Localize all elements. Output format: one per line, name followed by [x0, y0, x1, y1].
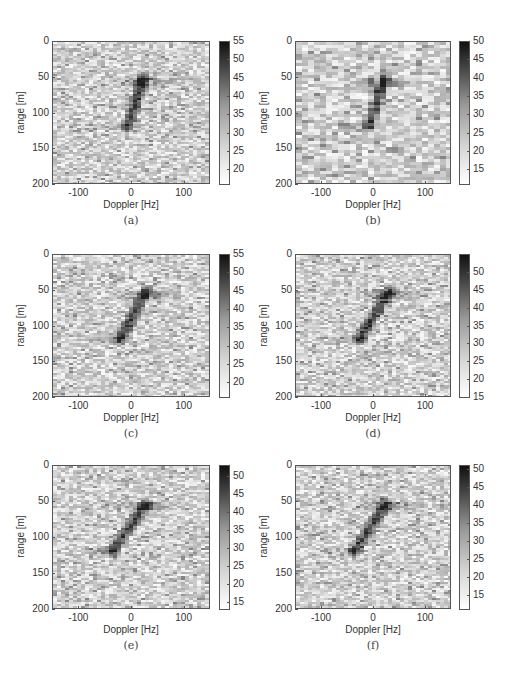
- colorbar-tick-label: 20: [473, 572, 484, 582]
- colorbar-tick-mark: [227, 41, 230, 42]
- y-tick-mark: [295, 148, 298, 149]
- colorbar-tick-mark: [227, 133, 230, 134]
- colorbar-tick-label: 50: [233, 267, 244, 277]
- colorbar-tick-mark: [227, 78, 230, 79]
- colorbar-tick-label: 25: [473, 128, 484, 138]
- colorbar-tick-label: 25: [233, 146, 244, 156]
- y-tick-label: 100: [25, 108, 49, 118]
- colorbar-tick-mark: [227, 382, 230, 383]
- y-tick-label: 100: [25, 321, 49, 331]
- y-tick-mark: [52, 397, 55, 398]
- y-tick-mark: [52, 501, 55, 502]
- colorbar-tick-mark: [227, 327, 230, 328]
- y-tick-mark: [52, 77, 55, 78]
- y-tick-label: 100: [25, 532, 49, 542]
- colorbar-tick-label: 45: [233, 489, 244, 499]
- y-tick-label: 200: [25, 392, 49, 402]
- colorbar-tick-mark: [227, 512, 230, 513]
- x-tick-label: -100: [63, 613, 93, 623]
- x-tick-mark: [425, 606, 426, 609]
- colorbar-tick-label: 45: [473, 482, 484, 492]
- x-tick-label: 0: [358, 613, 388, 623]
- y-tick-mark: [295, 609, 298, 610]
- colorbar-tick-label: 50: [233, 471, 244, 481]
- y-tick-mark: [295, 465, 298, 466]
- y-tick-mark: [295, 501, 298, 502]
- x-tick-label: 100: [169, 401, 199, 411]
- x-axis-label: Doppler [Hz]: [323, 624, 423, 635]
- x-tick-mark: [373, 181, 374, 184]
- x-tick-mark: [184, 394, 185, 397]
- y-tick-mark: [52, 326, 55, 327]
- colorbar-tick-mark: [467, 397, 470, 398]
- x-tick-mark: [425, 394, 426, 397]
- colorbar-tick-label: 25: [233, 359, 244, 369]
- colorbar-tick-mark: [227, 114, 230, 115]
- x-tick-label: -100: [63, 401, 93, 411]
- colorbar-tick-label: 55: [233, 249, 244, 259]
- colorbar-tick-mark: [227, 96, 230, 97]
- x-axis-label: Doppler [Hz]: [81, 624, 181, 635]
- colorbar-tick-label: 40: [473, 303, 484, 313]
- colorbar-tick-mark: [227, 254, 230, 255]
- panel-caption: (f): [353, 639, 393, 652]
- colorbar-tick-mark: [467, 523, 470, 524]
- x-tick-mark: [131, 606, 132, 609]
- x-tick-mark: [78, 181, 79, 184]
- colorbar-tick-label: 15: [473, 164, 484, 174]
- colorbar-tick-mark: [227, 602, 230, 603]
- y-tick-label: 0: [25, 460, 49, 470]
- colorbar-tick-label: 55: [233, 36, 244, 46]
- y-tick-label: 50: [268, 285, 292, 295]
- y-tick-mark: [295, 397, 298, 398]
- colorbar-tick-mark: [227, 272, 230, 273]
- y-tick-mark: [52, 41, 55, 42]
- colorbar-tick-mark: [227, 346, 230, 347]
- colorbar-tick-mark: [467, 343, 470, 344]
- y-tick-label: 50: [268, 496, 292, 506]
- colorbar-tick-label: 45: [233, 286, 244, 296]
- y-tick-label: 100: [268, 321, 292, 331]
- y-tick-mark: [295, 573, 298, 574]
- colorbar-tick-label: 30: [233, 543, 244, 553]
- colorbar-tick-mark: [227, 548, 230, 549]
- colorbar-tick-label: 45: [233, 73, 244, 83]
- x-tick-mark: [131, 181, 132, 184]
- x-tick-mark: [184, 181, 185, 184]
- x-axis-label: Doppler [Hz]: [81, 199, 181, 210]
- y-tick-label: 200: [25, 604, 49, 614]
- y-axis-label: range [m]: [15, 295, 26, 355]
- colorbar-tick-label: 45: [473, 285, 484, 295]
- y-tick-label: 200: [268, 392, 292, 402]
- colorbar-tick-label: 35: [473, 321, 484, 331]
- y-tick-label: 0: [268, 249, 292, 259]
- x-tick-label: 100: [410, 188, 440, 198]
- panel-caption: (d): [353, 427, 393, 440]
- colorbar-tick-label: 30: [233, 128, 244, 138]
- colorbar-tick-mark: [467, 114, 470, 115]
- colorbar-tick-mark: [467, 78, 470, 79]
- x-tick-mark: [131, 394, 132, 397]
- x-tick-label: 100: [410, 613, 440, 623]
- y-tick-label: 150: [25, 356, 49, 366]
- x-tick-label: -100: [63, 188, 93, 198]
- y-tick-mark: [295, 326, 298, 327]
- heatmap-plot: [295, 41, 451, 184]
- colorbar-tick-mark: [467, 559, 470, 560]
- y-tick-label: 150: [268, 568, 292, 578]
- colorbar-tick-label: 30: [473, 338, 484, 348]
- y-tick-label: 50: [268, 72, 292, 82]
- y-tick-label: 50: [25, 72, 49, 82]
- y-tick-label: 150: [25, 143, 49, 153]
- y-tick-label: 200: [268, 179, 292, 189]
- colorbar-tick-label: 30: [473, 109, 484, 119]
- colorbar-tick-mark: [467, 308, 470, 309]
- colorbar-tick-mark: [227, 151, 230, 152]
- panel-caption: (c): [111, 427, 151, 440]
- x-tick-label: -100: [306, 188, 336, 198]
- y-tick-mark: [52, 465, 55, 466]
- colorbar: [219, 465, 230, 610]
- colorbar-tick-label: 30: [233, 341, 244, 351]
- x-axis-label: Doppler [Hz]: [81, 412, 181, 423]
- heatmap-plot: [52, 41, 210, 184]
